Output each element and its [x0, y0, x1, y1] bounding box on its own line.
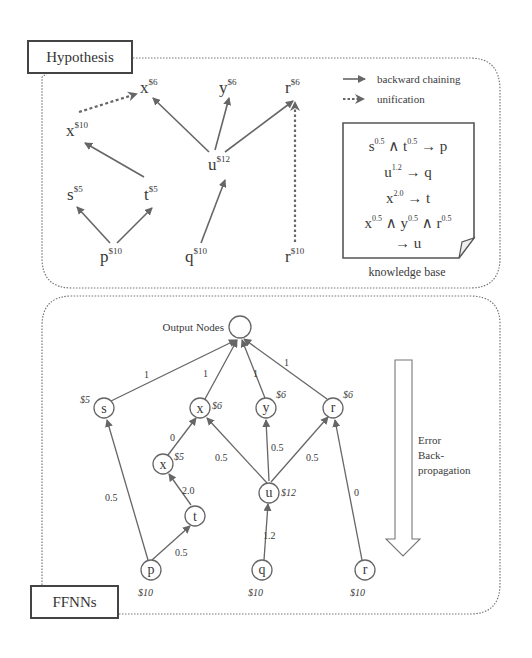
svg-text:s: s — [101, 401, 106, 416]
kb-caption: knowledge base — [369, 265, 446, 279]
hypothesis-title-box: Hypothesis — [27, 40, 133, 74]
hyp-node-x-mid: x$10 — [66, 120, 89, 140]
hyp-node-p: p$10 — [100, 246, 123, 266]
ffnn-node-u: u $12 — [259, 483, 296, 503]
kb-rule-2: u1.2 → q — [384, 163, 432, 180]
svg-text:1: 1 — [203, 368, 208, 379]
svg-text:$10: $10 — [350, 587, 365, 598]
ffnn-node-r-bot: r $10 — [350, 560, 375, 598]
svg-text:r: r — [331, 400, 336, 415]
svg-text:1: 1 — [284, 357, 289, 368]
svg-text:0.5: 0.5 — [215, 452, 228, 463]
ffnn-node-x-top: x $6 — [190, 398, 222, 418]
backprop-arrow-icon — [386, 360, 420, 556]
hyp-node-q: q$10 — [185, 246, 208, 266]
svg-text:t: t — [193, 509, 197, 524]
legend: backward chaining unification — [343, 73, 461, 105]
hyp-node-s: s$5 — [67, 184, 83, 204]
svg-text:q: q — [259, 562, 266, 577]
svg-text:r: r — [363, 562, 368, 577]
hyp-node-r-top: r$6 — [285, 77, 300, 97]
svg-text:Back-: Back- — [418, 449, 445, 461]
ffnn-node-q: q $10 — [248, 560, 272, 598]
knowledge-base: s0.5 ∧ t0.5 → p u1.2 → q x2.0 → t x0.5 ∧… — [343, 123, 474, 279]
hyp-node-x-top: x$6 — [140, 77, 158, 97]
svg-text:$10: $10 — [138, 587, 153, 598]
hypothesis-title: Hypothesis — [46, 49, 114, 66]
svg-text:$10: $10 — [248, 587, 263, 598]
legend-unification: unification — [377, 93, 425, 105]
svg-text:$5: $5 — [80, 394, 90, 405]
svg-text:x: x — [160, 457, 167, 472]
svg-text:$6: $6 — [343, 389, 353, 400]
svg-text:$6: $6 — [276, 389, 286, 400]
svg-text:0.5: 0.5 — [271, 442, 284, 453]
svg-text:1: 1 — [144, 369, 149, 380]
ffnn-node-t: t — [185, 506, 205, 526]
svg-text:$6: $6 — [212, 400, 222, 411]
svg-text:y: y — [263, 400, 270, 415]
legend-backward-chaining: backward chaining — [377, 73, 461, 85]
diagram-canvas: x$6 y$6 r$6 x$10 u$12 s$5 t$5 p$10 q$10 … — [0, 0, 532, 658]
svg-text:2.0: 2.0 — [182, 485, 195, 496]
hypothesis-edges — [77, 94, 295, 243]
ffnn-nodes: s $5 x $6 y $6 r $6 x $5 u $12 t p $10 q… — [80, 389, 375, 598]
hyp-node-y-top: y$6 — [219, 77, 237, 97]
kb-rule-4b: → u — [395, 235, 422, 251]
ffnn-node-p: p $10 — [138, 560, 161, 598]
ffnn-title-box: FFNNs — [30, 585, 119, 619]
ffnn-edge-weights: 1 1 1 1 0 0.5 0.5 0.5 2.0 0.5 0.5 1.2 0 — [105, 357, 359, 558]
output-node — [229, 316, 251, 338]
ffnn-node-r-top: r $6 — [323, 389, 353, 418]
svg-text:p: p — [148, 562, 155, 577]
svg-text:u: u — [266, 485, 273, 500]
svg-text:1: 1 — [253, 368, 258, 379]
svg-text:1.2: 1.2 — [263, 530, 276, 541]
ffnn-node-y: y $6 — [256, 389, 286, 418]
svg-text:0.5: 0.5 — [105, 492, 118, 503]
svg-text:$5: $5 — [174, 451, 184, 462]
ffnn-title: FFNNs — [52, 594, 96, 611]
svg-text:0.5: 0.5 — [306, 452, 319, 463]
svg-text:0: 0 — [170, 432, 175, 443]
svg-text:0: 0 — [354, 487, 359, 498]
output-nodes-label: Output Nodes — [163, 321, 224, 333]
hyp-node-u: u$12 — [208, 154, 230, 174]
hyp-node-r-bot: r$10 — [285, 246, 305, 266]
svg-text:$12: $12 — [281, 487, 296, 498]
kb-rule-3: x2.0 → t — [386, 189, 431, 206]
svg-text:x: x — [197, 401, 204, 416]
backprop-label: Error Back- propagation — [418, 434, 471, 476]
ffnn-node-s: s $5 — [80, 394, 114, 418]
svg-text:Error: Error — [418, 434, 442, 446]
svg-text:0.5: 0.5 — [175, 547, 188, 558]
hyp-node-t: t$5 — [144, 184, 158, 204]
svg-text:propagation: propagation — [418, 464, 471, 476]
